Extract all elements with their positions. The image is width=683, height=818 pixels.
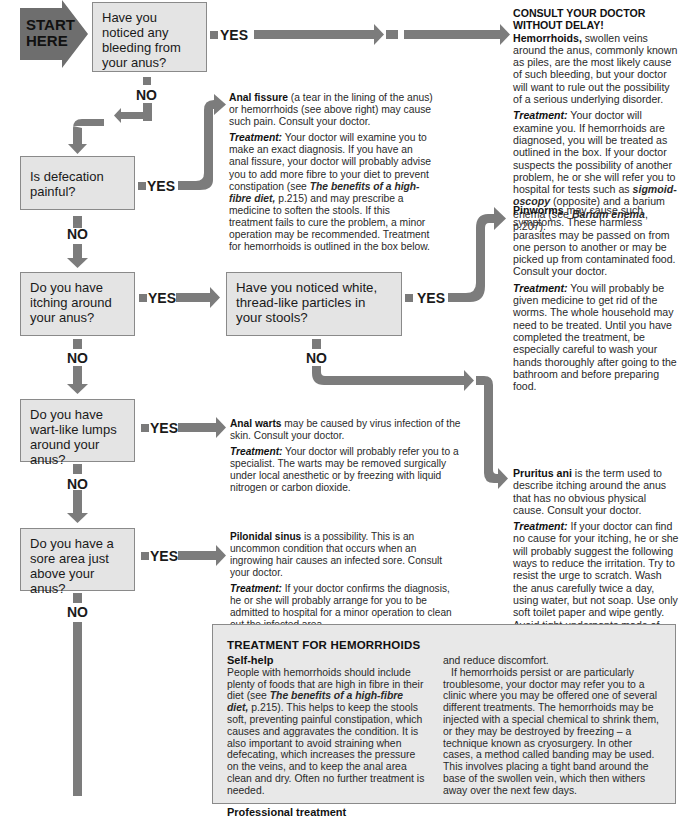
hemorrhoid-treatment-box: TREATMENT FOR HEMORRHOIDS Self-help Peop… [212, 624, 676, 804]
treatment-label: Treatment: [230, 446, 282, 457]
yes-marker [138, 182, 146, 190]
question-particles[interactable]: Have you noticed white, thread-like part… [226, 272, 402, 336]
condition-name: Pruritus ani [513, 467, 572, 479]
question-warts[interactable]: Do you have wart-like lumps around your … [20, 399, 135, 462]
no-marker [143, 77, 151, 85]
professional-heading: Professional treatment [227, 807, 427, 818]
yes-marker [405, 294, 413, 302]
condition-name: Hemorrhoids, [513, 32, 582, 44]
no-label-particles: NO [306, 351, 327, 365]
question-text: Have you noticed any bleeding from your … [102, 10, 181, 70]
urgent-heading: CONSULT YOUR DOCTOR WITHOUT DELAY! [513, 7, 679, 32]
question-text: Is defecation painful? [30, 169, 104, 199]
yes-label-particles: YES [417, 291, 445, 305]
condition-name: Pinworms [513, 204, 564, 216]
treatment-label: Treatment: [513, 109, 568, 121]
start-here-label: START HERE [26, 17, 75, 49]
yes-label-sore: YES [150, 549, 178, 563]
professional-text: and reduce discomfort. [443, 655, 665, 667]
no-marker [73, 216, 81, 224]
question-text: Have you noticed white, thread-like part… [236, 280, 377, 325]
treatment-label: Treatment: [513, 520, 568, 532]
question-defecation[interactable]: Is defecation painful? [20, 156, 135, 210]
selfhelp-text: p.215). This helps to keep the stools so… [227, 702, 424, 796]
no-label-bleeding: NO [136, 88, 157, 102]
outcome-anal-fissure: Anal fissure (a tear in the lining of th… [229, 92, 433, 257]
no-marker [312, 340, 320, 348]
question-text: Do you have a sore area just above your … [30, 536, 114, 596]
yes-marker [210, 31, 218, 39]
outcome-anal-warts: Anal warts may be caused by virus infect… [230, 418, 462, 498]
yes-label-defecation: YES [147, 179, 175, 193]
box-title: TREATMENT FOR HEMORRHOIDS [227, 639, 420, 651]
question-itching[interactable]: Do you have itching around your anus? [20, 272, 135, 336]
no-label-itching: NO [67, 351, 88, 365]
box-column-right: and reduce discomfort. If hemorrhoids pe… [443, 655, 665, 797]
yes-label-itching: YES [148, 291, 176, 305]
no-label-sore: NO [67, 605, 88, 619]
treatment-label: Treatment: [229, 132, 282, 143]
condition-name: Anal fissure [229, 92, 288, 103]
no-marker [73, 340, 81, 348]
condition-name: Anal warts [230, 418, 282, 429]
start-line2: HERE [26, 33, 75, 49]
yes-marker [139, 294, 147, 302]
professional-text: If hemorrhoids persist or are particular… [443, 667, 665, 797]
selfhelp-heading: Self-help [227, 655, 427, 667]
no-marker [73, 594, 81, 602]
question-sore[interactable]: Do you have a sore area just above your … [20, 528, 135, 591]
treatment-label: Treatment: [230, 583, 282, 594]
yes-marker [141, 424, 149, 432]
no-label-defecation: NO [67, 227, 88, 241]
no-label-warts: NO [67, 477, 88, 491]
start-line1: START [26, 17, 75, 33]
yes-marker [141, 552, 149, 560]
question-bleeding[interactable]: Have you noticed any bleeding from your … [92, 2, 207, 72]
outcome-pilonidal-sinus: Pilonidal sinus is a possibility. This i… [230, 531, 462, 635]
treatment-label: Treatment: [513, 282, 568, 294]
outcome-hemorrhoids: CONSULT YOUR DOCTOR WITHOUT DELAY! Hemor… [513, 7, 679, 236]
condition-name: Pilonidal sinus [230, 531, 301, 542]
yes-label-bleeding: YES [220, 28, 248, 42]
question-text: Do you have itching around your anus? [30, 280, 112, 325]
no-marker [73, 466, 81, 474]
box-column-left: Self-help People with hemorrhoids should… [227, 655, 427, 818]
yes-label-warts: YES [150, 421, 178, 435]
question-text: Do you have wart-like lumps around your … [30, 407, 117, 467]
outcome-pinworms: Pinworms may cause such symptoms. These … [513, 204, 679, 396]
treatment-text: You will probably be given medicine to g… [513, 282, 677, 392]
